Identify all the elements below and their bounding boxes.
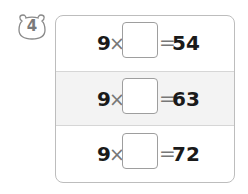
product: 72 xyxy=(172,142,200,166)
problem-number-badge: 4 xyxy=(17,14,47,40)
equation-row: 9 × = 63 xyxy=(56,71,234,126)
product: 54 xyxy=(172,31,200,55)
product: 63 xyxy=(172,87,200,111)
problem-number: 4 xyxy=(17,17,47,35)
equation-row: 9 × = 54 xyxy=(56,16,234,71)
answer-blank[interactable] xyxy=(122,133,158,169)
equation-row: 9 × = 72 xyxy=(56,126,234,183)
multiplication-table: 9 × = 54 9 × = 63 9 × = 72 xyxy=(55,15,235,183)
answer-blank[interactable] xyxy=(122,22,158,58)
answer-blank[interactable] xyxy=(122,78,158,114)
